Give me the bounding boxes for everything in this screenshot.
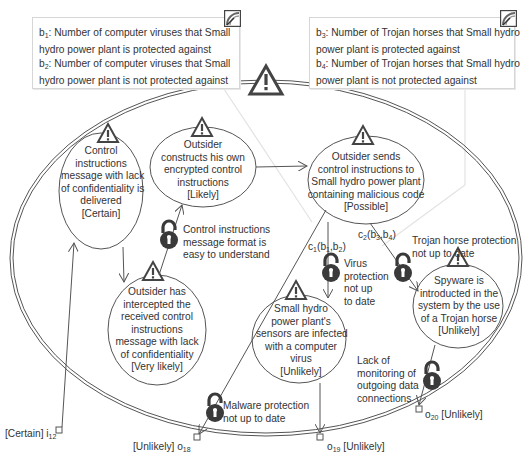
scenario-control-delivered-text: Control instructions message with lack o…: [61, 145, 141, 220]
lock-icon-format: [160, 221, 178, 249]
gate-label-o19: o19 [Unlikely]: [327, 441, 385, 457]
scenario-outsider-intercepted-text: Outsider has intercepted the received co…: [112, 286, 202, 374]
scenario-spyware-text: Spyware is introducted in the system by …: [414, 275, 504, 338]
scenario-sensors-infected-text: Small hydro power plant's sensors are in…: [256, 303, 346, 378]
gate-i12[interactable]: [56, 427, 62, 433]
relation-delivered-to-intercepted: [123, 247, 124, 282]
vulnerability-monitoring: Lack of monitoring of outgoing data conn…: [357, 355, 419, 405]
scenario-outsider-constructs-text: Outsider constructs his own encrypted co…: [153, 139, 253, 202]
note-line: hydro power plant is protected against: [39, 43, 233, 57]
vulnerability-trojan-protection: Trojan horse protection not up to date: [412, 235, 516, 260]
warning-icon: [353, 126, 373, 144]
lock-icon-virus: [322, 254, 340, 282]
note-trojan-horses: b3: Number of Trojan horses that Small h…: [309, 17, 515, 89]
gate-o20[interactable]: [416, 406, 422, 412]
note-gauge-icon: [224, 10, 241, 27]
vulnerability-format-easy: Control instructions message format is e…: [183, 224, 270, 262]
gate-label-o20: o20 [Unlikely]: [425, 409, 483, 425]
conditional-label-c1: c1(b1,b2): [308, 241, 346, 257]
warning-icon: [286, 281, 306, 299]
lock-icon-trojan: [394, 254, 412, 282]
note-line: b3: Number of Trojan horses that Small h…: [316, 26, 508, 43]
gate-label-o18: [Unlikely] o18: [133, 441, 191, 457]
conditional-label-c2: c2(b3,b4): [358, 229, 396, 245]
lock-icon-monitoring: [423, 362, 441, 390]
note-line: b4: Number of Trojan horses that Small h…: [316, 57, 508, 74]
lock-icon-malware: [206, 394, 224, 422]
note-line: power plant is not protected against: [316, 74, 508, 88]
note-line: hydro power plant is not protected again…: [39, 74, 233, 88]
scenario-outsider-sends-text: Outsider sends control instructions to S…: [306, 151, 426, 214]
vulnerability-malware-protection: Malware protection not up to date: [223, 400, 309, 425]
note-computer-viruses: b1: Number of computer viruses that Smal…: [32, 17, 240, 89]
note-line: b1: Number of computer viruses that Smal…: [39, 26, 233, 43]
note-gauge-icon: [500, 10, 517, 27]
note-line: power plant is protected against: [316, 43, 508, 57]
gate-o18[interactable]: [194, 434, 200, 440]
gate-o19[interactable]: [317, 434, 323, 440]
relation-i12-to-delivered: [62, 243, 74, 427]
gate-label-i12: [Certain] i12: [5, 428, 56, 444]
vulnerability-virus-protection: Virus protection not up to date: [344, 258, 389, 308]
relation-constructs-to-sends: [256, 166, 307, 167]
note-line: b2: Number of computer viruses that Smal…: [39, 57, 233, 74]
